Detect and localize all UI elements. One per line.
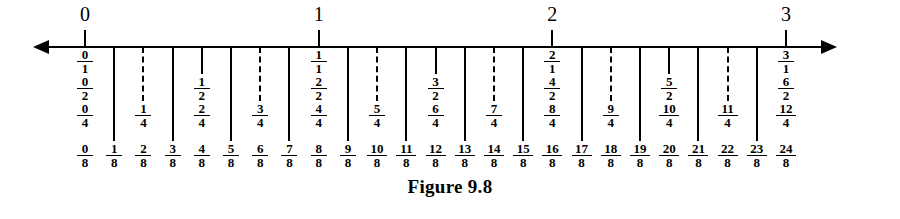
fraction-denominator: 4 bbox=[711, 117, 745, 128]
fraction-denominator: 4 bbox=[594, 117, 628, 128]
tick-mark-solid bbox=[522, 47, 524, 141]
fraction-numerator: 2 bbox=[302, 76, 336, 87]
fraction-numerator: 11 bbox=[711, 103, 745, 114]
fraction-label: 21 bbox=[535, 49, 569, 74]
fraction-numerator: 6 bbox=[419, 103, 453, 114]
fraction-denominator: 4 bbox=[419, 117, 453, 128]
tick-mark-solid bbox=[581, 47, 583, 141]
fraction-denominator: 8 bbox=[769, 157, 803, 168]
fraction-denominator: 4 bbox=[243, 117, 277, 128]
fraction-numerator: 0 bbox=[68, 49, 102, 60]
fraction-denominator: 2 bbox=[302, 90, 336, 101]
tick-mark-solid bbox=[697, 47, 699, 141]
fraction-numerator: 1 bbox=[185, 76, 219, 87]
fraction-denominator: 2 bbox=[419, 90, 453, 101]
fraction-numerator: 6 bbox=[769, 76, 803, 87]
fraction-numerator: 10 bbox=[652, 103, 686, 114]
fraction-numerator: 8 bbox=[535, 103, 569, 114]
fraction-label: 42 bbox=[535, 76, 569, 101]
fraction-numerator: 7 bbox=[477, 103, 511, 114]
tick-mark-solid bbox=[347, 47, 349, 141]
fraction-label: 124 bbox=[769, 103, 803, 128]
fraction-numerator: 9 bbox=[594, 103, 628, 114]
fraction-denominator: 2 bbox=[652, 90, 686, 101]
fraction-denominator: 4 bbox=[535, 117, 569, 128]
fraction-denominator: 4 bbox=[652, 117, 686, 128]
tick-mark-solid bbox=[230, 47, 232, 141]
fraction-numerator: 1 bbox=[126, 103, 160, 114]
integer-label: 3 bbox=[772, 4, 800, 24]
tick-mark-solid bbox=[435, 47, 437, 74]
fraction-denominator: 2 bbox=[68, 90, 102, 101]
tick-mark-up bbox=[318, 30, 320, 46]
tick-mark-solid bbox=[639, 47, 641, 141]
fraction-label: 94 bbox=[594, 103, 628, 128]
fraction-numerator: 12 bbox=[769, 103, 803, 114]
fraction-label: 44 bbox=[302, 103, 336, 128]
tick-mark-up bbox=[785, 30, 787, 46]
fraction-numerator: 0 bbox=[68, 76, 102, 87]
tick-mark-up bbox=[84, 30, 86, 46]
fraction-label: 54 bbox=[360, 103, 394, 128]
fraction-numerator: 2 bbox=[535, 49, 569, 60]
fraction-label: 114 bbox=[711, 103, 745, 128]
tick-mark-dashed bbox=[610, 47, 612, 101]
figure-9-8: 0010204081814283812244858346878111224488… bbox=[0, 0, 900, 219]
fraction-numerator: 3 bbox=[419, 76, 453, 87]
fraction-label: 34 bbox=[243, 103, 277, 128]
figure-caption: Figure 9.8 bbox=[0, 176, 900, 198]
tick-mark-dashed bbox=[142, 47, 144, 101]
fraction-numerator: 4 bbox=[302, 103, 336, 114]
fraction-label: 32 bbox=[419, 76, 453, 101]
fraction-label: 52 bbox=[652, 76, 686, 101]
fraction-denominator: 1 bbox=[769, 63, 803, 74]
fraction-label: 74 bbox=[477, 103, 511, 128]
fraction-label: 104 bbox=[652, 103, 686, 128]
fraction-label: 04 bbox=[68, 103, 102, 128]
fraction-denominator: 1 bbox=[535, 63, 569, 74]
tick-mark-solid bbox=[288, 47, 290, 141]
fraction-denominator: 4 bbox=[126, 117, 160, 128]
integer-label: 2 bbox=[538, 4, 566, 24]
tick-mark-solid bbox=[113, 47, 115, 141]
fraction-numerator: 1 bbox=[302, 49, 336, 60]
fraction-label: 64 bbox=[419, 103, 453, 128]
fraction-label: 24 bbox=[185, 103, 219, 128]
fraction-denominator: 4 bbox=[477, 117, 511, 128]
fraction-denominator: 4 bbox=[185, 117, 219, 128]
fraction-label: 11 bbox=[302, 49, 336, 74]
fraction-denominator: 1 bbox=[302, 63, 336, 74]
fraction-denominator: 4 bbox=[769, 117, 803, 128]
fraction-label: 22 bbox=[302, 76, 336, 101]
tick-mark-dashed bbox=[493, 47, 495, 101]
integer-label: 0 bbox=[71, 4, 99, 24]
tick-mark-dashed bbox=[259, 47, 261, 101]
fraction-denominator: 2 bbox=[535, 90, 569, 101]
fraction-label: 02 bbox=[68, 76, 102, 101]
tick-mark-solid bbox=[464, 47, 466, 141]
fraction-label: 84 bbox=[535, 103, 569, 128]
fraction-label: 12 bbox=[185, 76, 219, 101]
fraction-numerator: 3 bbox=[769, 49, 803, 60]
fraction-denominator: 2 bbox=[769, 90, 803, 101]
tick-mark-solid bbox=[172, 47, 174, 141]
tick-mark-dashed bbox=[727, 47, 729, 101]
arrow-right-icon bbox=[821, 40, 837, 54]
fraction-label: 62 bbox=[769, 76, 803, 101]
arrow-left-icon bbox=[33, 40, 49, 54]
tick-mark-solid bbox=[201, 47, 203, 74]
fraction-label: 31 bbox=[769, 49, 803, 74]
fraction-numerator: 0 bbox=[68, 103, 102, 114]
fraction-numerator: 24 bbox=[769, 143, 803, 154]
tick-mark-solid bbox=[756, 47, 758, 141]
tick-mark-solid bbox=[405, 47, 407, 141]
fraction-denominator: 4 bbox=[68, 117, 102, 128]
fraction-numerator: 5 bbox=[360, 103, 394, 114]
tick-mark-solid bbox=[668, 47, 670, 74]
fraction-denominator: 4 bbox=[302, 117, 336, 128]
integer-label: 1 bbox=[305, 4, 333, 24]
fraction-numerator: 2 bbox=[185, 103, 219, 114]
tick-mark-dashed bbox=[376, 47, 378, 101]
fraction-numerator: 5 bbox=[652, 76, 686, 87]
fraction-denominator: 1 bbox=[68, 63, 102, 74]
